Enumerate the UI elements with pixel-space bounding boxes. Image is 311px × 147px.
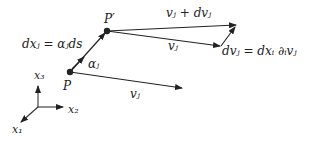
diagram-canvas (0, 0, 311, 147)
v-upper-arrow (107, 31, 220, 46)
label-p-prime: P′ (104, 13, 115, 25)
label-p: P (63, 80, 71, 92)
v-lower-arrow (70, 72, 182, 88)
label-x2: x₂ (68, 104, 79, 115)
label-v-upper: vⱼ (168, 40, 178, 52)
label-alpha: αⱼ (88, 58, 99, 70)
label-dv: dvⱼ = dxᵢ ∂ᵢvⱼ (222, 45, 297, 57)
label-v-plus-dv: vⱼ + dvⱼ (166, 7, 211, 19)
label-x1: x₁ (12, 124, 23, 135)
alpha-arrow (72, 57, 84, 69)
v-plus-dv-arrow (107, 25, 236, 31)
label-dx: dxⱼ = αⱼds (22, 38, 82, 50)
axis-x1 (21, 107, 38, 122)
point-p-prime (104, 28, 110, 34)
point-p (67, 69, 73, 75)
label-v-lower: vⱼ (130, 88, 140, 100)
label-x3: x₃ (34, 70, 45, 81)
